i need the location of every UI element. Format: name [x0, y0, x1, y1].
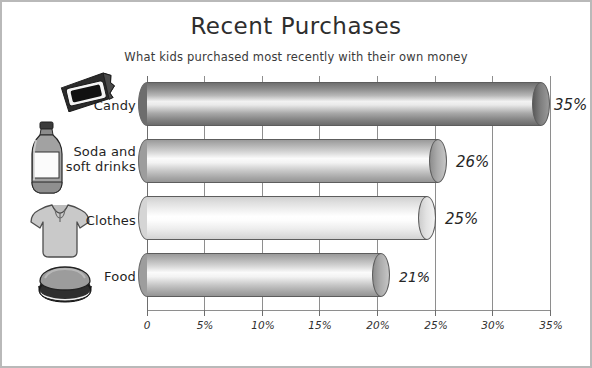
tshirt-icon — [29, 202, 91, 260]
bar-body — [147, 82, 541, 126]
x-axis-line — [147, 310, 550, 311]
bar-soda[interactable] — [147, 139, 447, 183]
bar-body — [147, 253, 381, 297]
category-label-line1: Candy — [44, 98, 136, 113]
x-tick-label-25: 25% — [406, 319, 466, 331]
chart-frame: Recent Purchases What kids purchased mos… — [0, 0, 592, 368]
category-label-clothes: Clothes — [44, 213, 136, 228]
x-tick-15 — [319, 310, 320, 316]
x-tick-label-30: 30% — [463, 319, 523, 331]
x-tick-5 — [204, 310, 205, 316]
category-label-food: Food — [44, 269, 136, 284]
chart-subtitle: What kids purchased most recently with t… — [2, 50, 590, 64]
category-label-line2: soft drinks — [44, 159, 136, 174]
bar-cap-right — [418, 196, 436, 240]
x-tick-label-10: 10% — [233, 319, 293, 331]
value-label-food: 21% — [399, 269, 430, 285]
x-tick-label-15: 15% — [290, 319, 350, 331]
x-tick-20 — [377, 310, 378, 316]
x-tick-30 — [492, 310, 493, 316]
x-tick-label-20: 20% — [348, 319, 408, 331]
value-label-soda: 26% — [456, 153, 489, 171]
x-tick-label-35: 35% — [521, 319, 581, 331]
x-tick-35 — [550, 310, 551, 316]
x-tick-10 — [262, 310, 263, 316]
category-label-line1: Food — [44, 269, 136, 284]
bar-cap-right — [532, 82, 550, 126]
bar-food[interactable] — [147, 253, 390, 297]
gridline-35 — [550, 76, 551, 310]
bar-cap-right — [372, 253, 390, 297]
category-label-line1: Soda and — [44, 144, 136, 159]
x-tick-label-5: 5% — [175, 319, 235, 331]
x-tick-0 — [147, 310, 148, 316]
value-label-clothes: 25% — [445, 210, 478, 228]
category-label-soda: Soda and soft drinks — [44, 144, 136, 174]
bar-clothes[interactable] — [147, 196, 436, 240]
x-tick-label-0: 0 — [117, 319, 177, 331]
category-label-candy: Candy — [44, 98, 136, 113]
chart-title: Recent Purchases — [2, 13, 590, 39]
bar-body — [147, 196, 427, 240]
bar-candy[interactable] — [147, 82, 550, 126]
category-label-line1: Clothes — [44, 213, 136, 228]
x-tick-25 — [435, 310, 436, 316]
bar-cap-right — [429, 139, 447, 183]
bar-body — [147, 139, 438, 183]
value-label-candy: 35% — [554, 96, 587, 114]
